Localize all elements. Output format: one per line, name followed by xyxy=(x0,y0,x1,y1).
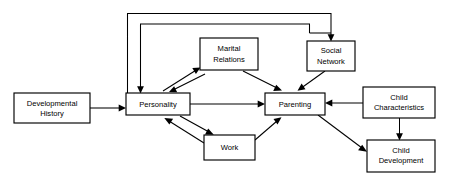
edge-personality-to-work xyxy=(180,116,214,135)
arrowhead-child-development-top xyxy=(396,133,403,140)
arrowhead-personality-left xyxy=(119,105,126,112)
node-personality[interactable]: Personality xyxy=(126,93,190,115)
node-developmental-history[interactable]: Developmental History xyxy=(14,93,90,123)
edge-work-to-parenting xyxy=(255,117,282,140)
node-work[interactable]: Work xyxy=(204,135,255,160)
node-marital-relations[interactable]: Marital Relations xyxy=(200,38,258,70)
node-child-characteristics[interactable]: Child Characteristics xyxy=(363,87,435,118)
arrowhead-parenting-topright xyxy=(298,84,306,91)
diagram-canvas: Developmental History Personality Marita… xyxy=(0,0,452,180)
edge-child-characteristics-to-child-development xyxy=(396,118,403,141)
node-child-development[interactable]: Child Development xyxy=(367,140,435,172)
edge-developmental-history-to-personality xyxy=(90,105,126,112)
arrowhead-personality-bottomleft xyxy=(164,118,173,125)
arrowhead-parenting-right xyxy=(325,100,332,107)
arrowhead-personality-top xyxy=(137,86,144,93)
edge-child-characteristics-to-parenting xyxy=(325,100,363,107)
arrowhead-social-network-top xyxy=(328,34,335,41)
edge-work-to-personality xyxy=(164,118,204,143)
arrowhead-marital-relations-bottomleft xyxy=(192,67,200,74)
edge-personality-to-parenting xyxy=(190,101,265,108)
arrowhead-work-top xyxy=(205,129,214,135)
arrowhead-parenting-left xyxy=(258,101,265,108)
node-parenting[interactable]: Parenting xyxy=(265,93,325,115)
edge-parenting-to-child-development xyxy=(318,115,367,152)
arrowhead-personality-topright xyxy=(169,86,177,92)
edge-marital-relations-to-parenting xyxy=(243,71,282,91)
edge-marital-relations-to-personality xyxy=(169,74,205,92)
diagram-svg: Developmental History Personality Marita… xyxy=(0,0,452,180)
arrowhead-parenting-topleft xyxy=(273,85,282,91)
edge-social-network-to-parenting xyxy=(298,71,326,91)
node-social-network[interactable]: Social Network xyxy=(307,41,355,71)
